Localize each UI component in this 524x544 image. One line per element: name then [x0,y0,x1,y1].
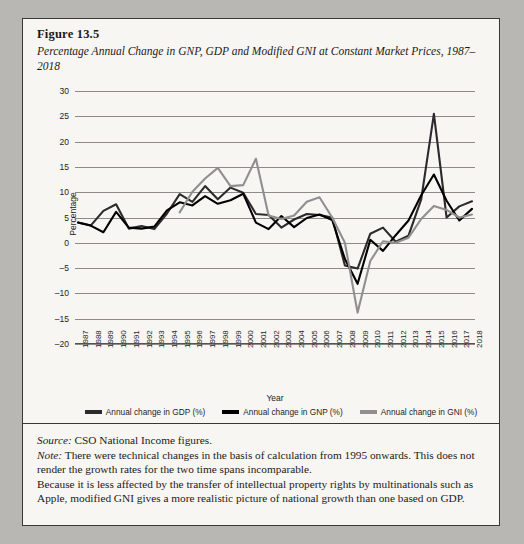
legend-swatch-icon [85,410,102,413]
y-axis-tick-label: 0 [41,238,69,248]
x-axis-tick-label: 1994 [170,330,179,348]
x-axis-tick-label: 2016 [450,330,459,348]
source-line: Source: CSO National Income figures. [37,433,489,448]
chart-legend: Annual change in GDP (%)Annual change in… [75,407,487,417]
plot-area: 302520151050–5–10–15–20 Percentage [75,91,475,344]
series-line [78,175,472,284]
x-axis-tick-label: 2008 [348,330,357,348]
figure-number: Figure 13.5 [37,27,99,42]
y-axis-tick-label: 15 [41,162,69,172]
x-axis-tick-label: 2006 [322,330,331,348]
x-axis-tick-label: 2012 [399,330,408,348]
page-background: Figure 13.5 Percentage Annual Change in … [0,0,524,544]
x-axis-label: Year [75,393,475,403]
note-label: Note: [37,449,62,461]
source-label: Source: [37,434,72,446]
series-line [78,114,472,269]
y-axis-tick-label: 25 [41,111,69,121]
notes-divider [23,423,499,424]
y-axis-tick-label: –20 [41,339,69,349]
legend-swatch-icon [360,410,377,413]
source-text: CSO National Income figures. [72,434,212,446]
x-axis-tick-label: 1987 [81,330,90,348]
x-axis-tick-label: 2000 [246,330,255,348]
x-axis-ticks: 1987198819891990199119921993199419951996… [75,346,475,390]
legend-item: Annual change in GNI (%) [360,407,477,417]
x-axis-tick-label: 1988 [94,330,103,348]
x-axis-tick-label: 1992 [145,330,154,348]
chart-container: 302520151050–5–10–15–20 Percentage 19871… [37,81,487,429]
figure-panel: Figure 13.5 Percentage Annual Change in … [22,18,500,526]
x-axis-tick-label: 1999 [234,330,243,348]
extra-note-line: Because it is less affected by the trans… [37,477,489,506]
legend-item: Annual change in GDP (%) [85,407,205,417]
x-axis-tick-label: 1989 [106,330,115,348]
note-line: Note: There were technical changes in th… [37,448,489,477]
chart-svg [75,91,475,344]
x-axis-tick-label: 2017 [462,330,471,348]
legend-label: Annual change in GNP (%) [243,407,342,417]
x-axis-tick-label: 2013 [411,330,420,348]
x-axis-tick-label: 2015 [437,330,446,348]
figure-title: Percentage Annual Change in GNP, GDP and… [37,44,489,74]
y-axis-tick-label: –15 [41,314,69,324]
y-axis-tick-label: 20 [41,137,69,147]
note-text: There were technical changes in the basi… [37,449,475,476]
x-axis-tick-label: 2018 [475,330,484,348]
x-axis-tick-label: 1991 [132,330,141,348]
legend-swatch-icon [222,410,239,413]
legend-label: Annual change in GDP (%) [106,407,205,417]
x-axis-tick-label: 2014 [424,330,433,348]
x-axis-tick-label: 1997 [208,330,217,348]
x-axis-tick-label: 2005 [310,330,319,348]
y-axis-tick-label: 30 [41,86,69,96]
legend-label: Annual change in GNI (%) [381,407,477,417]
x-axis-tick-label: 1990 [119,330,128,348]
x-axis-tick-label: 2007 [335,330,344,348]
x-axis-tick-label: 1993 [157,330,166,348]
y-axis-tick-label: 10 [41,187,69,197]
x-axis-tick-label: 2003 [284,330,293,348]
y-axis-tick-label: 5 [41,213,69,223]
x-axis-tick-label: 2010 [373,330,382,348]
x-axis-tick-label: 1995 [183,330,192,348]
series-lines-group [75,91,475,344]
x-axis-tick-label: 2001 [259,330,268,348]
y-axis-tick-label: –10 [41,288,69,298]
x-axis-tick-label: 2002 [272,330,281,348]
figure-notes: Source: CSO National Income figures. Not… [37,433,489,506]
x-axis-tick-label: 2004 [297,330,306,348]
legend-item: Annual change in GNP (%) [222,407,342,417]
y-axis-tick-label: –5 [41,263,69,273]
x-axis-tick-label: 2009 [361,330,370,348]
x-axis-tick-label: 2011 [386,331,395,348]
x-axis-tick-label: 1998 [221,330,230,348]
x-axis-tick-label: 1996 [195,330,204,348]
